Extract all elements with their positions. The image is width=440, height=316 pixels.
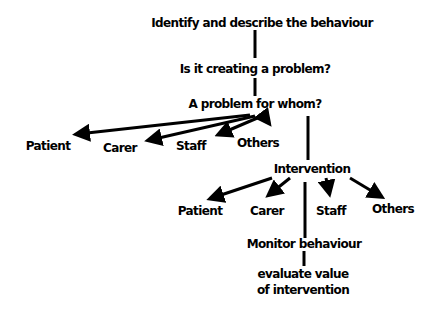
node-others-intervention: Others	[372, 202, 414, 216]
node-patient-problem: Patient	[26, 139, 71, 153]
arrow-to-patient-2	[212, 178, 272, 198]
arrow-to-others-2	[350, 178, 380, 196]
arrow-to-staff-2	[326, 178, 329, 192]
behaviour-flowchart: Identify and describe the behaviour Is i…	[0, 0, 440, 316]
connector-layer	[0, 0, 440, 316]
node-staff-intervention: Staff	[316, 204, 346, 218]
node-evaluate-line2: of intervention	[257, 283, 349, 297]
arrow-to-others-1	[262, 114, 268, 122]
node-carer-intervention: Carer	[250, 204, 284, 218]
arrow-to-carer-2	[270, 178, 290, 194]
node-others-problem: Others	[237, 136, 279, 150]
node-creating-problem: Is it creating a problem?	[180, 62, 331, 76]
node-monitor-behaviour: Monitor behaviour	[247, 237, 362, 251]
node-intervention: Intervention	[274, 162, 351, 176]
node-carer-problem: Carer	[103, 141, 137, 155]
node-problem-for-whom: A problem for whom?	[188, 97, 321, 111]
node-evaluate-line1: evaluate value	[257, 267, 348, 281]
node-staff-problem: Staff	[176, 139, 206, 153]
node-identify-behaviour: Identify and describe the behaviour	[151, 16, 373, 30]
node-patient-intervention: Patient	[178, 204, 223, 218]
